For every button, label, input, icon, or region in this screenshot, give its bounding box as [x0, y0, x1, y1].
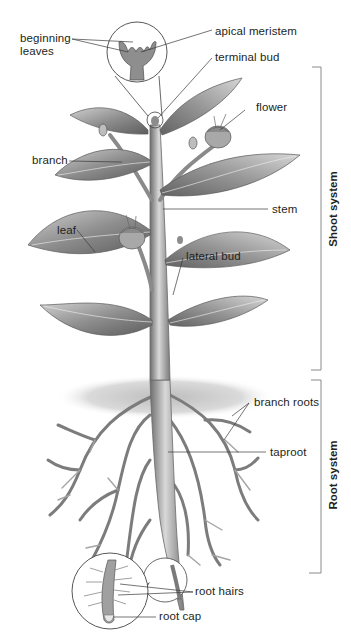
label-apical-meristem: apical meristem: [215, 25, 297, 38]
label-beginning-line1: beginning: [20, 32, 71, 45]
label-branch: branch: [32, 154, 68, 167]
label-root-cap: root cap: [159, 610, 201, 623]
apical-meristem-inset: [107, 22, 167, 116]
lateral-bud: [177, 236, 183, 244]
terminal-bud: [151, 116, 159, 126]
label-branch-roots: branch roots: [254, 396, 319, 409]
label-beginning-leaves: beginning leaves: [20, 32, 71, 58]
main-stem-shape: [150, 125, 170, 380]
label-shoot-system: Shoot system: [327, 169, 339, 249]
label-stem: stem: [272, 203, 297, 216]
label-terminal-bud: terminal bud: [215, 51, 279, 64]
label-taproot: taproot: [270, 446, 307, 459]
shoot-system-bracket: [311, 67, 321, 370]
plant-illustration: [0, 0, 351, 639]
plant-diagram: beginning leaves apical meristem termina…: [0, 0, 351, 639]
label-leaf: leaf: [57, 224, 76, 237]
label-root-system: Root system: [327, 438, 339, 512]
label-root-hairs: root hairs: [195, 585, 244, 598]
label-lateral-bud: lateral bud: [186, 250, 241, 263]
label-flower: flower: [256, 101, 287, 114]
label-beginning-line2: leaves: [20, 45, 71, 58]
